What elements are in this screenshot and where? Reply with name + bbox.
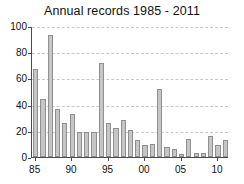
bar: [186, 139, 191, 157]
bar: [84, 132, 89, 157]
bar: [157, 89, 162, 157]
bar: [128, 130, 133, 158]
bar: [62, 123, 67, 157]
bar: [150, 144, 155, 157]
bar: [55, 109, 60, 157]
x-tick-mark: [217, 158, 218, 161]
bar: [70, 114, 75, 157]
bar-series: [32, 27, 228, 157]
y-tick-label: 60: [16, 74, 27, 84]
bar: [106, 123, 111, 157]
bar: [164, 147, 169, 157]
bar: [77, 132, 82, 157]
chart-title: Annual records 1985 - 2011: [0, 4, 244, 18]
bar: [142, 145, 147, 157]
x-tick-mark: [71, 158, 72, 161]
plot-area: [31, 27, 228, 158]
y-tick-label: 20: [16, 127, 27, 137]
y-tick-label: 40: [16, 101, 27, 111]
bar: [33, 69, 38, 157]
y-axis: 020406080100: [0, 0, 31, 184]
x-tick-mark: [144, 158, 145, 161]
bar: [201, 153, 206, 157]
x-axis: 859095000510: [0, 158, 244, 184]
bar: [113, 128, 118, 157]
y-tick-label: 100: [10, 22, 27, 32]
bar: [40, 99, 45, 157]
chart-figure: Annual records 1985 - 2011 020406080100 …: [0, 0, 244, 184]
x-tick-mark: [108, 158, 109, 161]
x-tick-label: 05: [175, 165, 186, 175]
x-tick-label: 95: [102, 165, 113, 175]
y-tick-label: 80: [16, 48, 27, 58]
bar: [223, 140, 228, 157]
bar: [208, 136, 213, 157]
bar: [172, 149, 177, 157]
bar: [179, 154, 184, 157]
bar: [48, 35, 53, 157]
x-tick-label: 90: [66, 165, 77, 175]
x-tick-mark: [181, 158, 182, 161]
bar: [135, 140, 140, 157]
x-tick-mark: [35, 158, 36, 161]
bar: [194, 153, 199, 157]
bar: [91, 132, 96, 157]
bar: [99, 63, 104, 157]
x-tick-label: 10: [211, 165, 222, 175]
bar: [121, 120, 126, 157]
x-tick-label: 85: [29, 165, 40, 175]
x-tick-label: 00: [139, 165, 150, 175]
bar: [215, 145, 220, 157]
